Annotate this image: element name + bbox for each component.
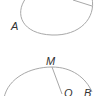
top-circle-figure: A xyxy=(10,0,93,35)
point-label-m: M xyxy=(46,55,56,67)
point-label-o: O xyxy=(64,87,73,96)
top-circle-arc xyxy=(21,0,93,35)
point-label-a: A xyxy=(10,20,18,32)
point-label-b: B xyxy=(84,87,91,96)
top-circle-segment xyxy=(73,0,92,6)
radius-segment-mo xyxy=(52,67,62,94)
bottom-circle-arc xyxy=(4,67,92,96)
bottom-circle-figure: M O B xyxy=(4,55,92,96)
geometry-diagram: A M O B xyxy=(0,0,94,96)
